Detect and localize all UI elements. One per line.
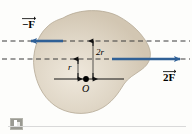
label-force-2F: 2F bbox=[163, 72, 175, 83]
origin-point bbox=[83, 76, 89, 82]
book-icon bbox=[10, 118, 23, 130]
label-force-negative-F: −F bbox=[22, 19, 35, 30]
label-distance-r: r bbox=[68, 63, 72, 72]
vector-arrow-overline-negative-F bbox=[22, 16, 36, 20]
footer-divider bbox=[8, 126, 186, 127]
label-distance-2r: 2r bbox=[96, 48, 104, 57]
label-origin-O: O bbox=[82, 84, 89, 94]
vector-arrow-overline-2F bbox=[163, 69, 176, 73]
irregular-rigid-body bbox=[34, 11, 151, 114]
label-force-2F-text: 2F bbox=[163, 71, 175, 83]
label-force-negative-F-text: −F bbox=[22, 18, 35, 30]
figure-container: −F 2F 2r r O bbox=[0, 0, 192, 134]
